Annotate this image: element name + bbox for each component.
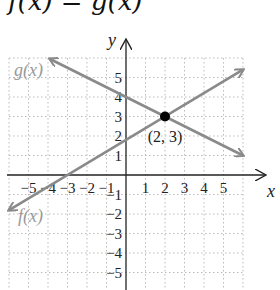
y-tick-label: 1 <box>115 148 123 164</box>
x-tick-label: 4 <box>200 180 208 196</box>
y-tick-label: −2 <box>106 206 122 222</box>
y-tick-label: −1 <box>106 187 122 203</box>
x-tick-label: −3 <box>60 180 76 196</box>
x-axis-label: x <box>266 181 275 201</box>
x-tick-label: 2 <box>161 180 169 196</box>
y-tick-label: −4 <box>106 245 122 261</box>
x-tick-label: −2 <box>79 180 95 196</box>
y-tick-label: 5 <box>115 70 123 86</box>
g-label: g(x) <box>14 60 43 81</box>
x-tick-label: 5 <box>220 180 228 196</box>
y-tick-label: 3 <box>115 109 123 125</box>
y-tick-label: −3 <box>106 226 122 242</box>
x-tick-label: 1 <box>142 180 150 196</box>
intersection-label: (2, 3) <box>148 128 183 146</box>
y-axis-label: y <box>106 30 116 50</box>
intersection-point <box>160 112 170 122</box>
f-label: f(x) <box>18 206 43 227</box>
x-tick-label: 3 <box>181 180 189 196</box>
coordinate-plane: xy−5−4−3−2−112345−5−4−3−2−112345g(x)f(x)… <box>0 0 280 290</box>
y-tick-label: −5 <box>106 265 122 281</box>
